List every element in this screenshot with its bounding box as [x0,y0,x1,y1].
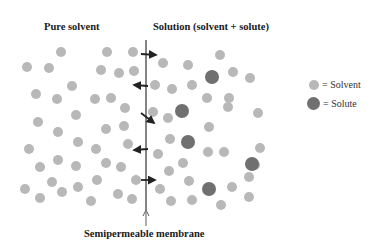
solvent-particle [224,93,234,103]
solute-particle [245,157,259,171]
particles-group [20,47,265,210]
solvent-particle [91,144,101,154]
solvent-particle [53,155,63,165]
solvent-particle [35,193,45,203]
solvent-particle [164,166,174,176]
solvent-particle [96,65,106,75]
solvent-dot-icon [309,80,319,90]
solvent-particle [203,147,213,157]
flow-arrow-icon [141,54,156,55]
solvent-particle [101,158,111,168]
legend-solvent: = Solvent [309,79,361,90]
solvent-particle [106,93,116,103]
solvent-particle [253,108,263,118]
solvent-particle [183,60,193,70]
solvent-particle [71,110,81,120]
solvent-particle [114,68,124,78]
solvent-particle [204,122,214,132]
solvent-particle [73,137,83,147]
solvent-particle [245,73,255,83]
solvent-particle [120,103,130,113]
solvent-particle [184,176,194,186]
solvent-particle [163,113,173,123]
solvent-particle [86,196,96,206]
flow-arrow-icon [134,85,148,86]
solvent-particle [166,196,176,206]
solvent-particle [219,147,229,157]
solvent-particle [158,58,168,68]
solvent-particle [129,66,139,76]
solvent-particle [244,172,254,182]
solvent-particle [73,182,83,192]
legend-solute-label: = Solute [323,98,357,109]
solvent-particle [123,139,133,149]
solvent-particle [71,161,81,171]
solvent-particle [56,47,66,57]
solvent-particle [24,144,34,154]
solvent-particle [128,47,138,57]
solute-particle [175,104,189,118]
osmosis-diagram [0,0,383,247]
solvent-particle [150,80,160,90]
solvent-particle [131,175,141,185]
solvent-particle [216,200,226,210]
solute-dot-icon [307,97,320,110]
solvent-particle [155,184,165,194]
solvent-particle [44,63,54,73]
solvent-particle [153,149,163,159]
solvent-particle [31,89,41,99]
solvent-particle [113,189,123,199]
solvent-particle [101,124,111,134]
solute-particle [205,70,219,84]
solvent-particle [165,134,175,144]
solvent-particle [90,94,100,104]
solvent-particle [187,195,197,205]
solvent-particle [244,192,254,202]
solvent-particle [92,175,102,185]
solvent-particle [167,84,177,94]
solvent-particle [67,81,77,91]
solvent-particle [228,67,238,77]
solvent-particle [178,158,188,168]
solvent-particle [57,187,67,197]
solvent-particle [202,93,212,103]
solvent-particle [187,80,197,90]
solvent-particle [53,127,63,137]
solvent-particle [227,182,237,192]
solvent-particle [52,94,62,104]
solute-particle [202,182,216,196]
solvent-particle [35,162,45,172]
solvent-particle [20,184,30,194]
solvent-particle [116,162,126,172]
solvent-particle [102,47,112,57]
solvent-particle [47,177,57,187]
solvent-particle [33,117,43,127]
solvent-particle [119,121,129,131]
membrane-pointer-icon [143,210,149,226]
solvent-particle [127,194,137,204]
solvent-particle [22,62,32,72]
solvent-particle [223,102,233,112]
legend-solute: = Solute [307,97,357,110]
solvent-particle [148,107,158,117]
solvent-particle [255,143,265,153]
legend-solvent-label: = Solvent [322,79,361,90]
solute-particle [181,135,195,149]
flow-arrow-icon [134,149,148,150]
solvent-particle [215,50,225,60]
